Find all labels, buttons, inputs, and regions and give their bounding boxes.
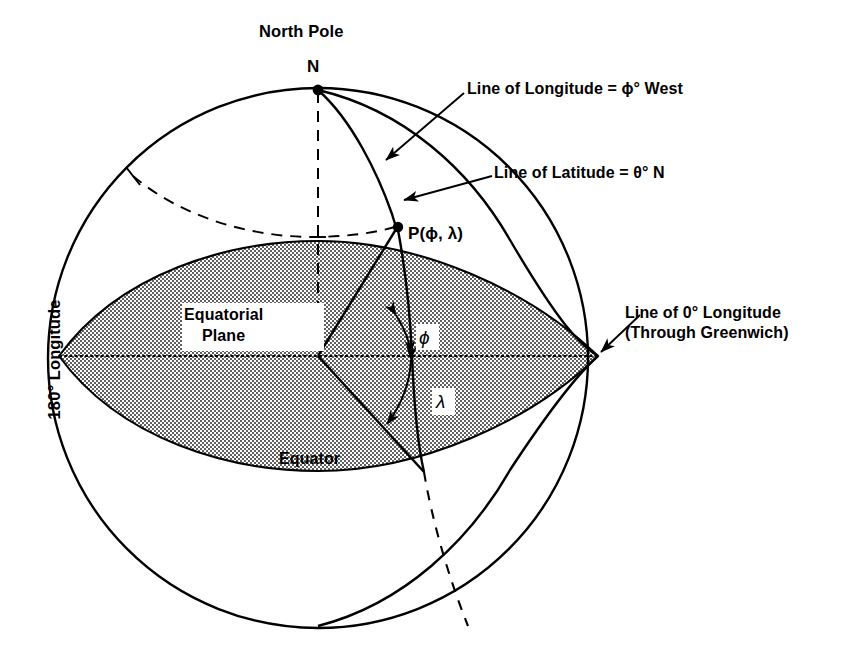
label-zero-longitude-line1: Line of 0° Longitude: [625, 304, 781, 321]
label-equatorial-plane-line1: Equatorial: [184, 306, 263, 323]
latitude-circle-dashed: [133, 176, 398, 237]
label-line-of-latitude: Line of Latitude = θ° N: [494, 164, 665, 182]
label-line-of-longitude: Line of Longitude = ϕ° West: [467, 80, 683, 98]
label-point-p: P(ϕ, λ): [408, 224, 463, 244]
label-angle-phi: ϕ: [419, 327, 430, 349]
label-zero-longitude: Line of 0° Longitude (Through Greenwich): [625, 303, 789, 343]
label-zero-longitude-line2: (Through Greenwich): [625, 323, 789, 343]
label-north-pole-marker: N: [307, 57, 319, 77]
label-equatorial-plane: Equatorial Plane: [184, 305, 263, 347]
label-equator: Equator: [279, 450, 340, 468]
latitude-left-tick: [126, 167, 140, 185]
globe-coordinate-diagram: North Pole N Line of Longitude = ϕ° West…: [0, 0, 841, 656]
point-p-dot: [393, 222, 403, 232]
label-north-pole: North Pole: [259, 22, 343, 41]
label-angle-lambda: λ: [436, 391, 445, 413]
label-180-longitude: 180° Longitude: [45, 270, 64, 450]
north-pole-dot: [313, 85, 324, 96]
leader-longitude-label: [386, 93, 464, 160]
leader-latitude-label: [404, 176, 492, 200]
label-equatorial-plane-line2: Plane: [184, 326, 263, 347]
